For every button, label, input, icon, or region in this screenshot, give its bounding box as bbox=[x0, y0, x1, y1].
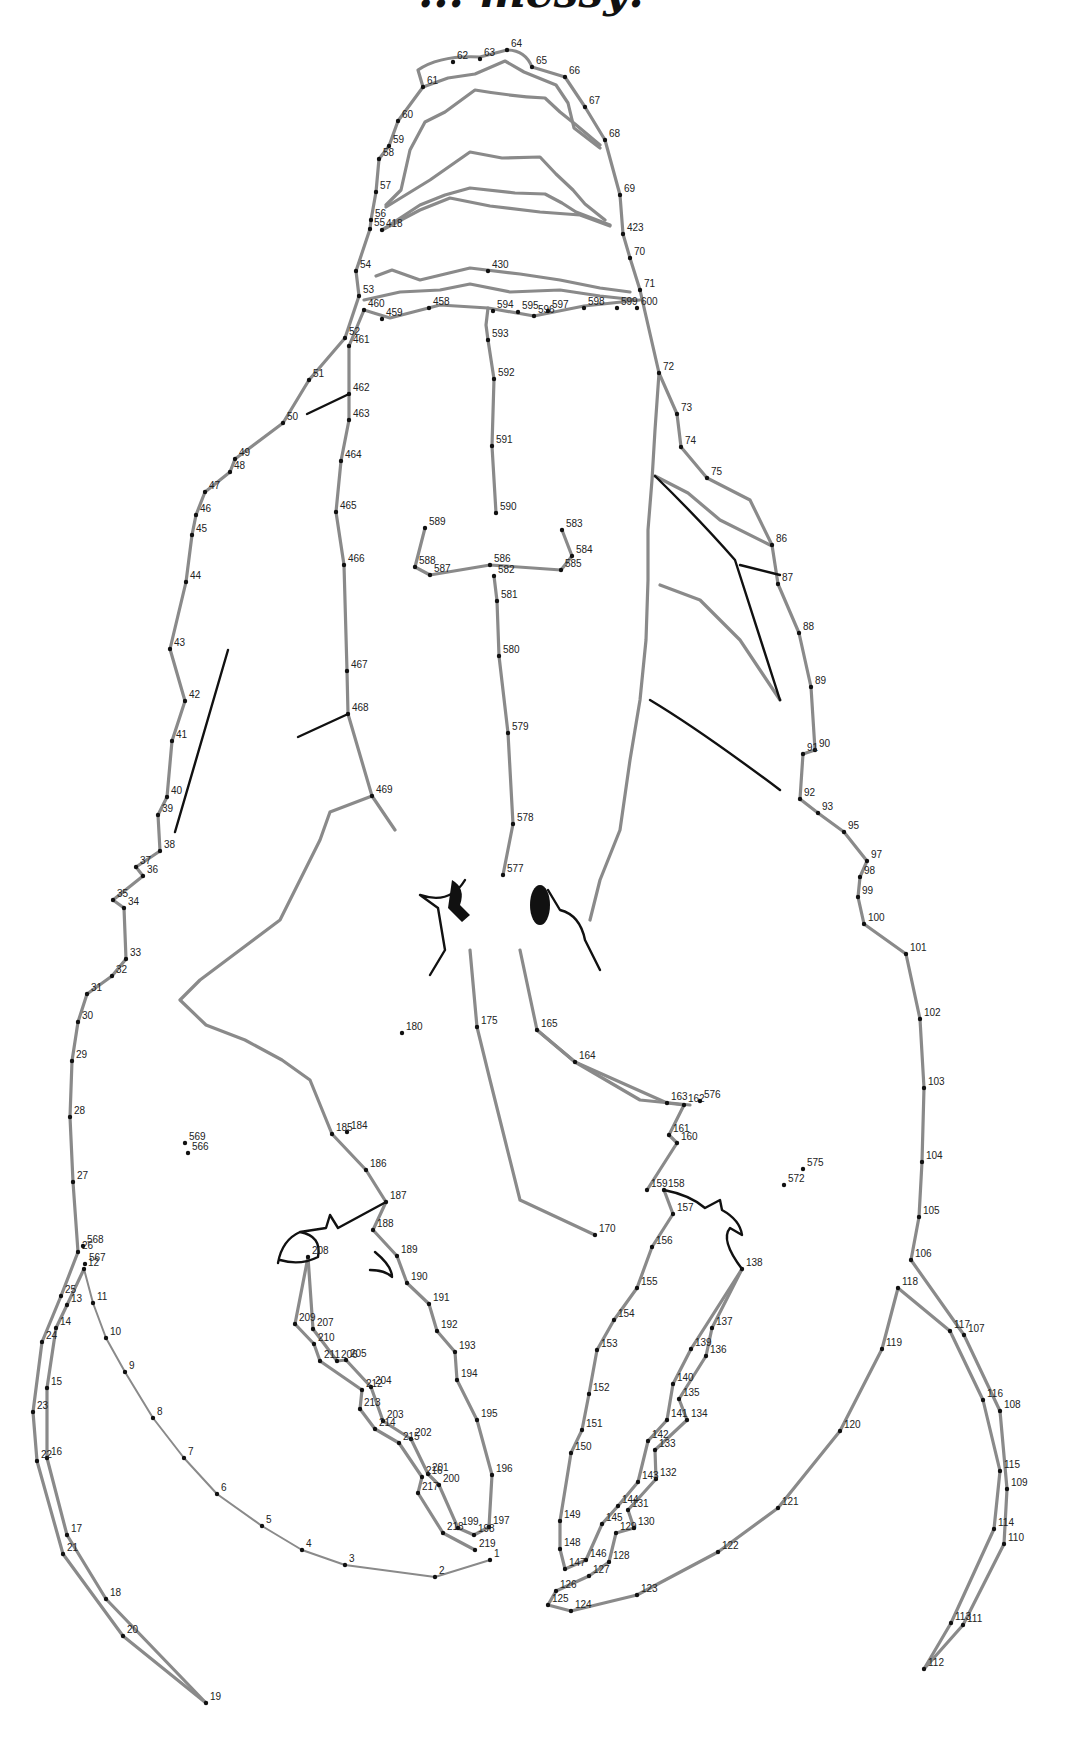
dot-label: 149 bbox=[564, 1509, 581, 1520]
left-pincer-hook bbox=[278, 1202, 386, 1263]
dot-21 bbox=[61, 1552, 65, 1556]
dot-label: 58 bbox=[383, 147, 395, 158]
dot-label: 463 bbox=[353, 408, 370, 419]
dot-462 bbox=[347, 392, 351, 396]
dot-36 bbox=[141, 874, 145, 878]
dot-213 bbox=[358, 1407, 362, 1411]
dot-label: 75 bbox=[711, 466, 723, 477]
numbered-dots: 1234567891011121314151617181920212223242… bbox=[31, 38, 1028, 1705]
dot-label: 197 bbox=[493, 1515, 510, 1526]
dot-label: 188 bbox=[377, 1218, 394, 1229]
dot-467 bbox=[345, 669, 349, 673]
dot-label: 567 bbox=[89, 1252, 106, 1263]
dot-195 bbox=[475, 1418, 479, 1422]
dot-459 bbox=[380, 317, 384, 321]
dot-75 bbox=[705, 476, 709, 480]
left-arm bbox=[180, 796, 492, 1535]
dot-62 bbox=[451, 60, 455, 64]
dot-100 bbox=[862, 922, 866, 926]
dot-label: 116 bbox=[987, 1388, 1003, 1399]
dot-label: 118 bbox=[902, 1276, 918, 1287]
dot-label: 568 bbox=[87, 1234, 104, 1245]
dot-111 bbox=[961, 1623, 965, 1627]
dot-194 bbox=[455, 1378, 459, 1382]
dot-580 bbox=[497, 654, 501, 658]
dot-2 bbox=[433, 1575, 437, 1579]
dot-51 bbox=[307, 378, 311, 382]
dot-98 bbox=[858, 875, 862, 879]
dot-label: 44 bbox=[190, 570, 202, 581]
dot-label: 586 bbox=[494, 553, 511, 564]
dot-54 bbox=[354, 269, 358, 273]
dot-110 bbox=[1002, 1542, 1006, 1546]
right-inner-line bbox=[590, 373, 659, 920]
dot-label: 51 bbox=[313, 368, 325, 379]
dot-68 bbox=[603, 138, 607, 142]
dot-label: 137 bbox=[716, 1316, 733, 1327]
dot-label: 216 bbox=[426, 1465, 443, 1476]
dot-109 bbox=[1005, 1487, 1009, 1491]
dot-567 bbox=[83, 1262, 87, 1266]
dot-label: 158 bbox=[668, 1178, 685, 1189]
dot-210 bbox=[312, 1342, 316, 1346]
dot-46 bbox=[194, 513, 198, 517]
dot-161 bbox=[667, 1133, 671, 1137]
dot-106 bbox=[909, 1258, 913, 1262]
dot-180 bbox=[400, 1031, 404, 1035]
dot-148 bbox=[558, 1547, 562, 1551]
dot-label: 67 bbox=[589, 95, 601, 106]
dot-label: 200 bbox=[443, 1473, 460, 1484]
dot-label: 194 bbox=[461, 1368, 478, 1379]
dot-label: 50 bbox=[287, 411, 299, 422]
dot-label: 57 bbox=[380, 180, 392, 191]
dot-25 bbox=[59, 1294, 63, 1298]
dot-label: 210 bbox=[318, 1332, 335, 1343]
dot-label: 468 bbox=[352, 702, 369, 713]
dot-93 bbox=[816, 811, 820, 815]
dot-461 bbox=[347, 344, 351, 348]
dot-label: 189 bbox=[401, 1244, 418, 1255]
dot-219 bbox=[473, 1548, 477, 1552]
dot-label: 38 bbox=[164, 839, 176, 850]
dot-192 bbox=[435, 1329, 439, 1333]
dot-114 bbox=[992, 1527, 996, 1531]
dot-97 bbox=[865, 859, 869, 863]
dot-164 bbox=[573, 1060, 577, 1064]
dot-label: 211 bbox=[324, 1349, 340, 1360]
dot-113 bbox=[949, 1621, 953, 1625]
dot-label: 193 bbox=[459, 1340, 476, 1351]
dot-159 bbox=[645, 1188, 649, 1192]
left-eye bbox=[448, 880, 470, 922]
dot-27 bbox=[71, 1180, 75, 1184]
carapace-band-1 bbox=[376, 268, 630, 292]
dot-15 bbox=[45, 1386, 49, 1390]
dot-label: 69 bbox=[624, 183, 636, 194]
dot-label: 430 bbox=[492, 259, 509, 270]
dot-label: 576 bbox=[704, 1089, 721, 1100]
dot-70 bbox=[628, 256, 632, 260]
dot-8 bbox=[151, 1416, 155, 1420]
dot-586 bbox=[488, 563, 492, 567]
dot-209 bbox=[293, 1322, 297, 1326]
dot-103 bbox=[922, 1086, 926, 1090]
dot-145 bbox=[600, 1522, 604, 1526]
dot-label: 70 bbox=[634, 246, 646, 257]
dot-label: 141 bbox=[671, 1408, 688, 1419]
dot-label: 190 bbox=[411, 1271, 428, 1282]
dot-466 bbox=[342, 563, 346, 567]
dot-label: 597 bbox=[552, 299, 569, 310]
dot-198 bbox=[472, 1533, 476, 1537]
dot-37 bbox=[134, 865, 138, 869]
dot-49 bbox=[233, 457, 237, 461]
dot-label: 582 bbox=[498, 564, 515, 575]
dot-65 bbox=[530, 65, 534, 69]
dot-193 bbox=[453, 1350, 457, 1354]
dot-122 bbox=[716, 1550, 720, 1554]
dot-label: 575 bbox=[807, 1157, 824, 1168]
dot-45 bbox=[190, 533, 194, 537]
dot-label: 90 bbox=[819, 738, 831, 749]
dot-108 bbox=[998, 1409, 1002, 1413]
dot-label: 215 bbox=[403, 1431, 420, 1442]
dot-label: 68 bbox=[609, 128, 621, 139]
dot-label: 34 bbox=[128, 896, 140, 907]
